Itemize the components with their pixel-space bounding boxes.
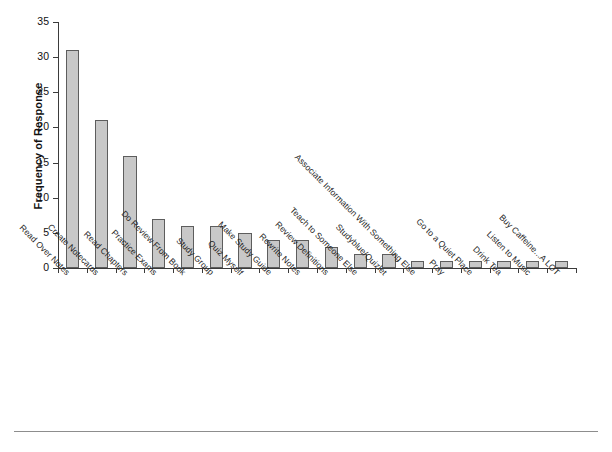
x-axis-category-labels: Read Over NotesCreate NotecardsRead Chap… [58, 270, 598, 430]
y-tick-label: 30 [37, 50, 49, 63]
y-tick: 15 [53, 163, 58, 164]
bar [66, 50, 79, 268]
y-tick: 10 [53, 198, 58, 199]
y-axis-label: Frequency of Response [32, 46, 44, 246]
y-tick-label: 35 [37, 15, 49, 28]
y-tick-label: 20 [37, 120, 49, 133]
bottom-divider-rule [14, 431, 598, 432]
y-tick: 25 [53, 92, 58, 93]
y-tick-label: 15 [37, 156, 49, 169]
y-tick: 30 [53, 57, 58, 58]
y-tick-label: 0 [43, 261, 49, 274]
y-tick-label: 10 [37, 191, 49, 204]
bar-chart-figure: Frequency of Response 05101520253035 Rea… [0, 0, 612, 452]
y-tick: 20 [53, 127, 58, 128]
y-tick-label: 25 [37, 85, 49, 98]
y-tick: 35 [53, 22, 58, 23]
